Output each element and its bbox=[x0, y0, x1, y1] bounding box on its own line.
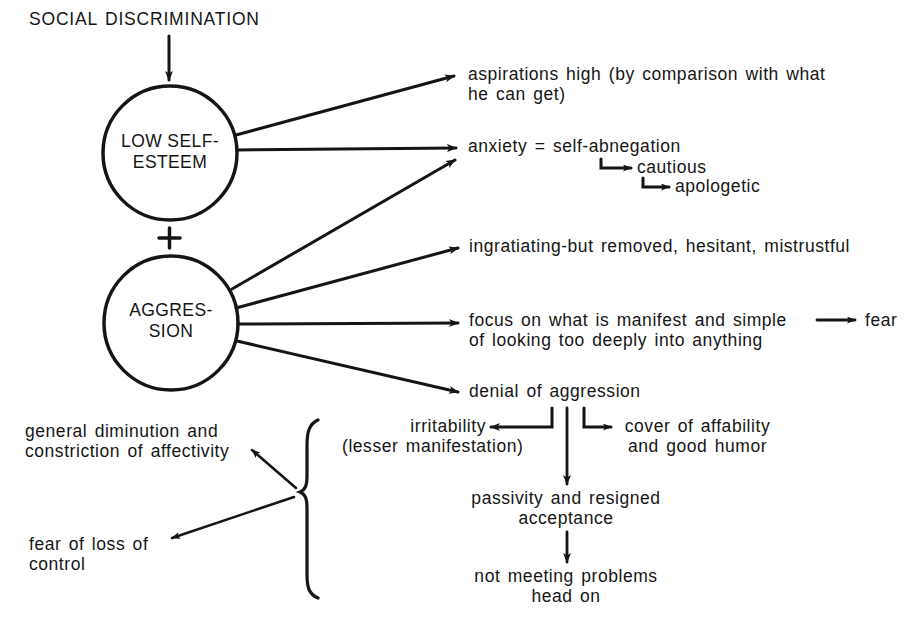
outcome-cover: cover of affability and good humor bbox=[620, 416, 775, 456]
arrow-self-esteem-to-anxiety bbox=[237, 148, 456, 150]
arrow-aggression-to-anxiety bbox=[232, 160, 455, 289]
aggression-label: AGGRES- SION bbox=[111, 300, 231, 342]
outcome-focus: focus on what is manifest and simple of … bbox=[469, 310, 787, 350]
outcome-not-meeting: not meeting problems head on bbox=[466, 566, 666, 606]
outcome-aspirations: aspirations high (by comparison with wha… bbox=[468, 64, 825, 104]
outcome-denial: denial of aggression bbox=[469, 381, 641, 401]
outcome-ingratiating: ingratiating-but removed, hesitant, mist… bbox=[469, 236, 850, 256]
outcome-cautious: cautious bbox=[637, 157, 707, 177]
arrow-to-denial bbox=[237, 341, 458, 392]
arrow-to-diminution bbox=[252, 450, 296, 488]
arrow-to-fear-of-loss bbox=[172, 497, 294, 538]
branch-to-irritability bbox=[491, 408, 552, 427]
plus-icon bbox=[159, 228, 180, 248]
arrow-to-focus bbox=[238, 323, 458, 324]
outcome-irritability: irritability bbox=[338, 416, 486, 436]
elbow-to-cautious bbox=[601, 159, 631, 168]
arrow-to-ingratiating bbox=[236, 248, 458, 308]
diagram-canvas: SOCIAL DISCRIMINATION LOW SELF- ESTEEM A… bbox=[0, 0, 909, 621]
arrow-to-aspirations bbox=[236, 76, 454, 135]
curly-brace bbox=[300, 420, 318, 598]
low-self-esteem-label: LOW SELF- ESTEEM bbox=[110, 131, 230, 173]
outcome-passivity: passivity and resigned acceptance bbox=[466, 488, 666, 528]
outcome-fear: fear bbox=[865, 310, 897, 330]
root-label: SOCIAL DISCRIMINATION bbox=[29, 9, 260, 29]
branch-to-cover bbox=[584, 408, 611, 427]
outcome-anxiety: anxiety = self-abnegation bbox=[468, 136, 681, 156]
outcome-apologetic: apologetic bbox=[675, 176, 760, 196]
outcome-diminution: general diminution and constriction of a… bbox=[25, 421, 229, 461]
outcome-fear-of-loss: fear of loss of control bbox=[29, 534, 148, 574]
elbow-to-apologetic bbox=[643, 178, 669, 187]
outcome-irritability-note: (lesser manifestation) bbox=[342, 436, 523, 456]
